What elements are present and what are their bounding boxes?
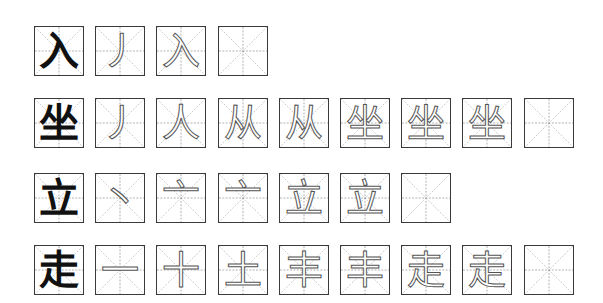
stroke-step-character: 立	[341, 174, 389, 222]
rice-grid-guide	[525, 99, 573, 147]
stroke-step-box: 入	[156, 26, 206, 76]
model-character-box: 入	[34, 26, 84, 76]
stroke-step-character: 坐	[463, 99, 511, 147]
stroke-step-character: 坐	[341, 99, 389, 147]
stroke-step-character: 丶	[96, 174, 144, 222]
stroke-step-box: 亠	[218, 173, 268, 223]
stroke-step-character: 走	[463, 246, 511, 294]
stroke-step-character: 亠	[219, 174, 267, 222]
stroke-step-character: 丰	[280, 246, 328, 294]
stroke-step-character: 从	[280, 99, 328, 147]
stroke-step-character: 人	[157, 99, 205, 147]
stroke-step-character: 土	[219, 246, 267, 294]
stroke-step-character: 十	[157, 246, 205, 294]
stroke-step-box: 亠	[156, 173, 206, 223]
stroke-step-character: 一	[96, 246, 144, 294]
rice-grid-guide	[219, 27, 267, 75]
stroke-step-box: 从	[218, 98, 268, 148]
practice-box[interactable]	[401, 173, 451, 223]
stroke-step-box: 坐	[401, 98, 451, 148]
model-character: 入	[35, 27, 83, 75]
stroke-step-box: 丰	[279, 245, 329, 295]
practice-box[interactable]	[218, 26, 268, 76]
stroke-step-box: 立	[279, 173, 329, 223]
stroke-step-box: 走	[401, 245, 451, 295]
stroke-step-box: 人	[156, 98, 206, 148]
practice-box[interactable]	[524, 98, 574, 148]
stroke-step-box: 丿	[95, 98, 145, 148]
model-character: 走	[35, 246, 83, 294]
stroke-step-box: 坐	[340, 98, 390, 148]
stroke-step-character: 丰	[341, 246, 389, 294]
stroke-step-box: 丰	[340, 245, 390, 295]
stroke-step-character: 坐	[402, 99, 450, 147]
stroke-step-character: 丿	[96, 27, 144, 75]
model-character-box: 坐	[34, 98, 84, 148]
stroke-step-box: 十	[156, 245, 206, 295]
stroke-step-character: 亠	[157, 174, 205, 222]
rice-grid-guide	[525, 246, 573, 294]
model-character: 坐	[35, 99, 83, 147]
stroke-step-character: 立	[280, 174, 328, 222]
stroke-step-box: 走	[462, 245, 512, 295]
stroke-step-box: 一	[95, 245, 145, 295]
stroke-step-character: 从	[219, 99, 267, 147]
stroke-step-box: 丶	[95, 173, 145, 223]
stroke-step-box: 立	[340, 173, 390, 223]
rice-grid-guide	[402, 174, 450, 222]
stroke-step-character: 入	[157, 27, 205, 75]
stroke-step-box: 丿	[95, 26, 145, 76]
stroke-step-box: 从	[279, 98, 329, 148]
stroke-step-character: 丿	[96, 99, 144, 147]
stroke-step-box: 土	[218, 245, 268, 295]
practice-box[interactable]	[524, 245, 574, 295]
stroke-step-character: 走	[402, 246, 450, 294]
stroke-step-box: 坐	[462, 98, 512, 148]
model-character-box: 立	[34, 173, 84, 223]
model-character-box: 走	[34, 245, 84, 295]
model-character: 立	[35, 174, 83, 222]
